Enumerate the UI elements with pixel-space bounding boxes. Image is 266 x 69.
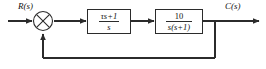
- controller-denominator: s: [99, 21, 119, 31]
- output-signal-label: C(s): [225, 1, 241, 11]
- controller-numerator: τs+1: [99, 12, 119, 21]
- plant-numerator: 10: [166, 12, 192, 21]
- controller-transfer-function: τs+1 s: [99, 12, 119, 31]
- summing-junction-glyph: [34, 12, 53, 31]
- plant-transfer-function: 10 s(s+1): [166, 12, 192, 31]
- input-signal-label: R(s): [18, 1, 33, 11]
- plant-denominator: s(s+1): [166, 21, 192, 31]
- controller-block: τs+1 s: [87, 9, 131, 34]
- plant-block: 10 s(s+1): [155, 9, 203, 34]
- block-diagram: R(s) C(s) τs+1 s 10 s(s+1): [0, 0, 266, 69]
